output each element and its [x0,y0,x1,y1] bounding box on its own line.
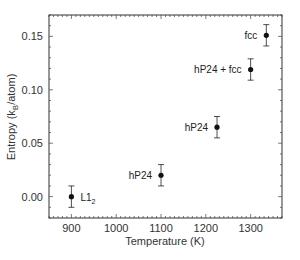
x-tick-label: 1100 [149,222,173,234]
phase-label: hP24 [185,122,209,133]
y-axis-title-pre: Entropy (k [5,110,17,161]
y-axis-title: Entropy (kB/atom) [5,74,20,161]
phase-label: L1 [80,192,92,203]
plot-border [49,15,282,218]
x-axis-ticks: 9001000110012001300 [62,222,263,234]
y-tick-label: 0.10 [22,84,43,96]
data-point-marker [158,173,163,178]
phase-annotation: L12 [80,192,95,205]
data-point-marker [69,194,74,199]
x-tick-label: 1200 [194,222,218,234]
phase-label: hP24 + fcc [194,64,242,75]
data-point-marker [214,125,219,130]
x-tick-label: 1300 [238,222,262,234]
phase-annotation: hP24 + fcc [194,64,242,75]
data-point-group: fcc [245,25,270,46]
minor-ticks [49,15,282,218]
y-axis-title-post: /atom) [5,74,17,105]
data-points: L12hP24hP24hP24 + fccfcc [68,25,269,208]
x-tick-label: 900 [62,222,80,234]
data-point-group: hP24 + fcc [194,59,254,80]
phase-annotation: hP24 [129,170,153,181]
x-axis-title: Temperature (K) [125,235,204,247]
y-axis-ticks: 0.000.050.100.15 [22,30,43,202]
phase-annotation: fcc [245,30,258,41]
phase-label-subscript: 2 [92,198,96,205]
y-tick-label: 0.15 [22,30,43,42]
plot-frame [49,15,282,218]
data-point-marker [264,33,269,38]
entropy-temperature-chart: 9001000110012001300 0.000.050.100.15 L12… [0,0,300,260]
data-point-group: hP24 [185,117,220,138]
data-point-marker [248,67,253,72]
x-tick-label: 1000 [104,222,128,234]
y-tick-label: 0.05 [22,137,43,149]
phase-annotation: hP24 [185,122,209,133]
data-point-group: hP24 [129,165,164,186]
phase-label: hP24 [129,170,153,181]
y-tick-label: 0.00 [22,191,43,203]
data-point-group: L12 [68,186,95,207]
phase-label: fcc [245,30,258,41]
